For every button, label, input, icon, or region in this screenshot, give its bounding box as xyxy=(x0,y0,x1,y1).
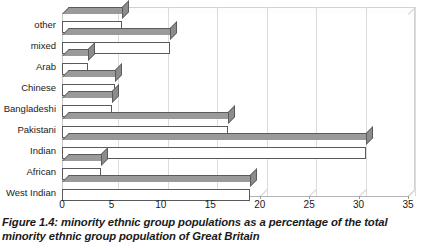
value-axis-tick-label: 25 xyxy=(297,199,321,210)
value-axis-tick-label: 20 xyxy=(248,199,272,210)
bar-top-face xyxy=(62,175,257,182)
category-axis-tick-label: West Indian xyxy=(0,187,56,198)
bar-top-face xyxy=(62,7,129,14)
bar-group xyxy=(62,140,373,161)
value-axis-tick-label: 10 xyxy=(149,199,173,210)
gridline xyxy=(366,7,367,196)
value-axis-tick-label: 5 xyxy=(99,199,123,210)
bar-top-face xyxy=(62,28,177,35)
category-axis-tick-label: Arab xyxy=(0,61,56,72)
gridline xyxy=(415,7,416,196)
figure: othermixedArabChineseBangladeshiPakistan… xyxy=(0,0,434,249)
category-axis-tick-label: Bangladeshi xyxy=(0,103,56,114)
bar-top-face xyxy=(62,133,373,140)
value-axis-tick-label: 0 xyxy=(50,199,74,210)
value-axis-tick-label: 35 xyxy=(396,199,420,210)
category-axis-tick-label: mixed xyxy=(0,40,56,51)
bar-side-face xyxy=(122,0,129,19)
gridline xyxy=(316,7,317,196)
value-axis-tick-label: 15 xyxy=(198,199,222,210)
category-axis-tick-label: Indian xyxy=(0,145,56,156)
bar-top-face xyxy=(62,112,235,119)
gridline xyxy=(267,7,268,196)
gridline xyxy=(217,7,218,196)
category-axis-tick-label: African xyxy=(0,166,56,177)
bar-top-face xyxy=(62,91,119,98)
figure-caption: Figure 1.4: minority ethnic group popula… xyxy=(2,216,432,243)
category-axis-tick-label: Pakistani xyxy=(0,124,56,135)
chart-plot-area: othermixedArabChineseBangladeshiPakistan… xyxy=(0,0,434,215)
bar-top-face xyxy=(62,70,122,77)
value-axis-tick-label: 30 xyxy=(347,199,371,210)
category-axis-tick-label: Chinese xyxy=(0,82,56,93)
category-axis-tick-label: other xyxy=(0,19,56,30)
